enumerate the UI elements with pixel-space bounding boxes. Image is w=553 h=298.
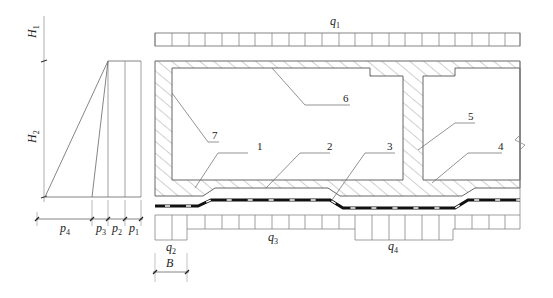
bottom-loads [155, 215, 520, 240]
pressure-diagram: H1 H2 p4 p3 p2 p1 [25, 16, 143, 237]
callout-1: 1 [257, 140, 263, 152]
callout-4: 4 [498, 140, 504, 152]
box-structure [155, 61, 525, 215]
callout-6: 6 [343, 92, 349, 104]
q4-label: q4 [388, 239, 398, 255]
p4-label: p4 [59, 221, 70, 237]
callout-3: 3 [387, 140, 393, 152]
waterproof-layer [155, 200, 520, 208]
callout-5: 5 [468, 110, 474, 122]
width-dimension-b: B [153, 253, 189, 282]
h1-label: H1 [25, 25, 41, 39]
p1-label: p1 [128, 221, 139, 237]
svg-text:B: B [166, 256, 174, 270]
svg-text:H2: H2 [25, 130, 41, 144]
top-load-q1: q1 [155, 14, 520, 46]
h2-label: H2 [25, 130, 41, 144]
q1-label: q1 [330, 14, 340, 30]
p3-label: p3 [95, 221, 106, 237]
callout-7: 7 [212, 129, 218, 141]
svg-text:H1: H1 [25, 25, 41, 39]
callout-2: 2 [327, 140, 333, 152]
q2-label: q2 [166, 240, 176, 256]
p2-label: p2 [111, 221, 122, 237]
structural-diagram: H1 H2 p4 p3 p2 p1 q1 [0, 0, 553, 298]
q3-label: q3 [268, 230, 278, 246]
